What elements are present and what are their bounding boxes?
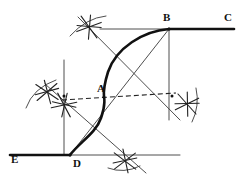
point-label-c: C [224,11,232,23]
point-a [103,96,106,99]
point-center-upper [171,95,174,98]
figure-canvas: ABCDE [0,0,247,185]
point-label-a: A [97,82,105,94]
ogee-construction-figure: ABCDE [0,0,247,185]
point-label-b: B [163,11,171,23]
point-label-d: D [73,157,81,169]
point-label-e: E [11,153,18,165]
point-d [69,154,72,157]
point-b [168,28,171,31]
point-center-lower [63,95,66,98]
